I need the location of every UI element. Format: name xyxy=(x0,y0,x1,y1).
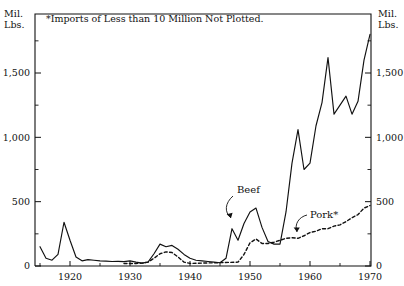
axis-frame xyxy=(35,14,371,266)
chart-container: Mil. Lbs. Mil. Lbs. 05001,0001,500 05001… xyxy=(0,0,404,286)
x-tick-label: 1960 xyxy=(298,271,322,282)
y-tick-label: 1,000 xyxy=(3,132,30,143)
y-tick-label: 0 xyxy=(376,260,382,271)
y-axis-ticks-right xyxy=(365,41,371,266)
y-tick-label: 1,000 xyxy=(376,132,403,143)
x-tick-label: 1950 xyxy=(238,271,262,282)
annotation-label-beef: Beef xyxy=(237,184,261,195)
y-axis-tick-labels-right: 05001,0001,500 xyxy=(376,67,403,271)
y-tick-label: 1,500 xyxy=(3,67,30,78)
y-tick-label: 0 xyxy=(24,260,30,271)
chart-plot-area: 05001,0001,500 05001,0001,500 1920193019… xyxy=(0,0,404,286)
chart-footnote: *Imports of Less than 10 Million Not Plo… xyxy=(46,13,263,24)
annotation-pork: Pork* xyxy=(294,209,339,232)
x-tick-label: 1930 xyxy=(118,271,142,282)
annotation-label-pork: Pork* xyxy=(310,209,338,220)
y-tick-label: 500 xyxy=(12,196,30,207)
x-tick-label: 1970 xyxy=(358,271,382,282)
x-tick-label: 1940 xyxy=(178,271,202,282)
y-axis-tick-labels-left: 05001,0001,500 xyxy=(3,67,30,271)
x-axis-tick-labels: 192019301940195019601970 xyxy=(58,271,382,282)
y-axis-ticks-left xyxy=(35,41,41,266)
annotation-beef: Beef xyxy=(226,184,261,218)
plot-frame xyxy=(35,14,371,266)
y-tick-label: 500 xyxy=(376,196,394,207)
y-tick-label: 1,500 xyxy=(376,67,403,78)
leader-arrow-pork xyxy=(294,228,300,232)
x-tick-label: 1920 xyxy=(58,271,82,282)
